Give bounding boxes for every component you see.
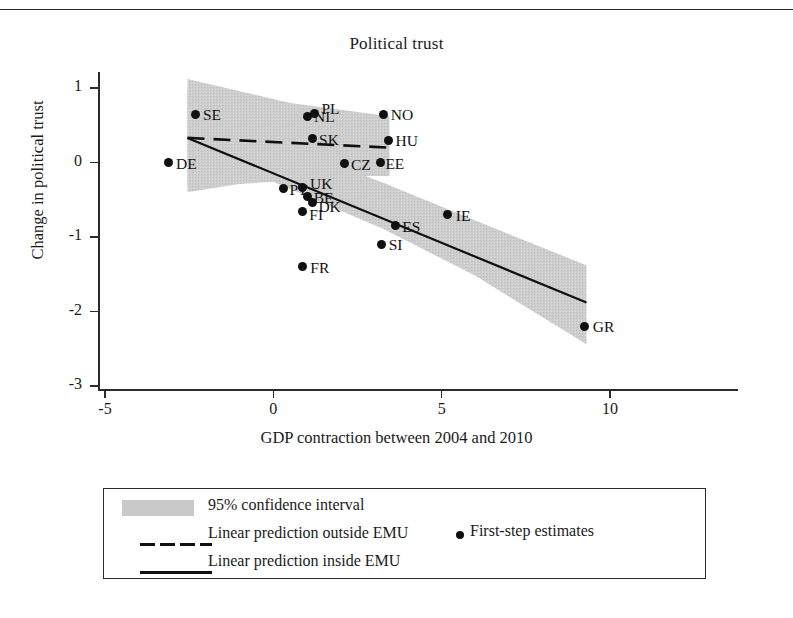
- x-tick-mark: [104, 389, 106, 398]
- point-label-sk: SK: [319, 132, 339, 148]
- point-label-cz: CZ: [351, 157, 371, 173]
- chart-legend: 95% confidence interval Linear predictio…: [103, 488, 706, 579]
- legend-label-first-step-estimates: First-step estimates: [470, 522, 594, 540]
- x-tick-label: 0: [248, 400, 298, 418]
- chart-figure: Political trust 10-1-2-3 -50510 DESENLPL…: [0, 0, 793, 618]
- x-tick-mark: [609, 389, 611, 398]
- x-tick-mark: [273, 389, 275, 398]
- y-tick-label: -2: [42, 301, 82, 319]
- scatter-point-se: [191, 110, 200, 119]
- dashed-line-swatch: [122, 529, 194, 544]
- x-tick-label: 10: [585, 400, 635, 418]
- point-label-pl: PL: [321, 101, 339, 117]
- scatter-point-hu: [384, 136, 393, 145]
- y-tick-mark: [90, 87, 99, 89]
- y-tick-label: 1: [42, 77, 82, 95]
- point-label-se: SE: [203, 107, 221, 123]
- legend-label-confidence-interval: 95% confidence interval: [208, 496, 364, 514]
- scatter-point-pl: [310, 109, 319, 118]
- confidence-interval-bands: [187, 79, 586, 344]
- x-axis-title: GDP contraction between 2004 and 2010: [0, 428, 793, 448]
- x-tick-label: 5: [417, 400, 467, 418]
- confidence-band-outside-emu: [187, 79, 389, 192]
- point-label-si: SI: [389, 237, 403, 253]
- point-label-no: NO: [391, 107, 413, 123]
- point-label-gr: GR: [593, 319, 615, 335]
- point-label-de: DE: [176, 156, 197, 172]
- y-tick-mark: [90, 311, 99, 313]
- scatter-point-sk: [308, 134, 317, 143]
- confidence-band-swatch: [122, 500, 194, 516]
- point-label-ee: EE: [385, 156, 404, 172]
- y-axis-line: [98, 72, 100, 390]
- scatter-point-fi: [298, 207, 307, 216]
- scatter-point-es: [391, 221, 400, 230]
- scatter-point-pt: [279, 184, 288, 193]
- scatter-point-no: [379, 110, 388, 119]
- y-tick-mark: [90, 236, 99, 238]
- y-axis-title: Change in political trust: [28, 30, 48, 330]
- y-tick-mark: [90, 385, 99, 387]
- x-tick-label: -5: [80, 400, 130, 418]
- scatter-point-ee: [376, 158, 385, 167]
- solid-line-swatch: [122, 557, 194, 572]
- y-tick-label: 0: [42, 152, 82, 170]
- first-step-estimate-dot-swatch: [456, 531, 464, 539]
- x-tick-mark: [441, 389, 443, 398]
- legend-label-outside-emu: Linear prediction outside EMU: [208, 524, 408, 542]
- y-tick-mark: [90, 162, 99, 164]
- y-tick-label: -3: [42, 375, 82, 393]
- point-label-es: ES: [402, 219, 420, 235]
- legend-label-inside-emu: Linear prediction inside EMU: [208, 552, 400, 570]
- point-label-fr: FR: [310, 260, 329, 276]
- x-axis-line: [98, 389, 738, 391]
- y-tick-label: -1: [42, 226, 82, 244]
- point-label-fi: FI: [309, 207, 323, 223]
- point-label-hu: HU: [395, 133, 417, 149]
- point-label-ie: IE: [456, 208, 471, 224]
